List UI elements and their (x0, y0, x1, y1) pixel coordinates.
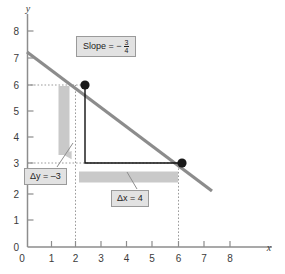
y-tick-label-6: 6 (13, 80, 19, 91)
x-tick-label-6: 6 (176, 253, 182, 264)
y-tick-label-4: 4 (13, 132, 19, 143)
x-tick-label-3: 3 (98, 253, 104, 264)
delta-x-callout: Δx = 4 (111, 190, 149, 207)
x-axis-label: x (266, 242, 272, 253)
y-axis-tick-labels: 0 1 2 3 4 5 6 7 8 (13, 26, 19, 253)
x-tick-label-1: 1 (49, 253, 55, 264)
slope-callout-prefix: Slope = − (83, 42, 122, 51)
y-tick-label-7: 7 (13, 53, 19, 64)
data-point-6-3 (177, 158, 186, 167)
slope-fraction: 34 (124, 39, 130, 55)
data-point-2-6 (80, 80, 89, 89)
slope-denominator: 4 (124, 46, 130, 54)
x-tick-label-7: 7 (201, 253, 207, 264)
y-tick-label-1: 1 (13, 215, 19, 226)
x-tick-label-8: 8 (227, 253, 233, 264)
delta-y-callout: Δy = –3 (24, 168, 67, 185)
y-tick-label-2: 2 (13, 189, 19, 200)
coordinate-plot: 0 1 2 3 4 5 6 7 8 0 1 2 3 4 5 6 7 8 x y (0, 0, 285, 274)
slope-graph-figure: 0 1 2 3 4 5 6 7 8 0 1 2 3 4 5 6 7 8 x y (0, 0, 285, 274)
y-tick-label-5: 5 (13, 106, 19, 117)
slope-callout: Slope = −34 (76, 36, 136, 57)
y-axis-label: y (25, 3, 31, 14)
y-tick-label-3: 3 (13, 158, 19, 169)
y-tick-label-0: 0 (13, 242, 19, 253)
x-axis-tick-labels: 0 1 2 3 4 5 6 7 8 (19, 253, 233, 264)
x-tick-label-5: 5 (149, 253, 155, 264)
x-tick-label-0: 0 (19, 253, 25, 264)
x-tick-label-4: 4 (124, 253, 130, 264)
x-tick-label-2: 2 (73, 253, 79, 264)
slope-numerator: 3 (124, 39, 130, 46)
y-tick-label-8: 8 (13, 26, 19, 37)
